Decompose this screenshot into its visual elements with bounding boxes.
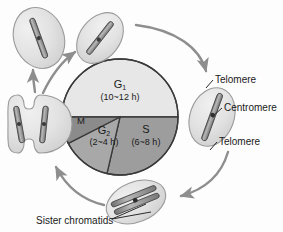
cell-cycle-pie-chart: G1 (10~12 h) S (6~8 h) G2 (2~4 h) M (62, 59, 178, 175)
arrow-g2-to-m (56, 167, 104, 205)
callout-sister-chromatids: Sister chromatids (36, 215, 113, 226)
cell-cycle-figure: G1 (10~12 h) S (6~8 h) G2 (2~4 h) M (0, 0, 283, 232)
arrow-m-to-daughter (33, 70, 35, 92)
callout-telomere-top: Telomere (215, 74, 257, 85)
callout-centromere: Centromere (224, 102, 277, 113)
callout-telomere-bottom: Telomere (219, 136, 261, 147)
pie-time-s: (6~8 h) (132, 137, 161, 147)
leader-telomere-top (206, 80, 213, 88)
arrow-g1-to-s (136, 25, 206, 71)
pie-time-g2: (2~4 h) (90, 137, 119, 147)
pie-label-s: S (142, 123, 149, 135)
pie-label-m: M (77, 115, 85, 126)
cell-mitosis-division (8, 95, 72, 153)
arrow-s-to-g2 (181, 152, 228, 196)
pie-time-g1: (10~12 h) (101, 92, 140, 102)
